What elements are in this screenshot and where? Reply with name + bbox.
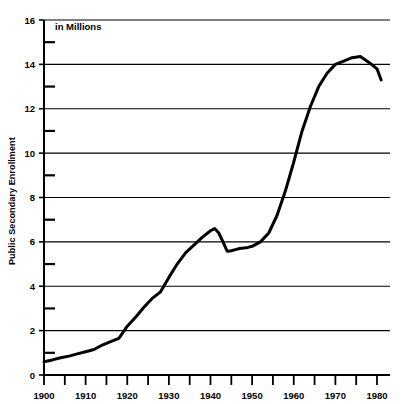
- x-axis-tick-labels: 190019101920193019401950196019701980: [33, 390, 387, 401]
- x-tick-label: 1930: [158, 390, 179, 401]
- y-tick-label: 0: [30, 370, 35, 381]
- y-tick-label: 12: [24, 103, 35, 114]
- y-axis-title: Public Secondary Enrollment: [7, 137, 17, 265]
- y-tick-label: 8: [30, 192, 35, 203]
- line-chart: 0246810121416 19001910192019301940195019…: [0, 0, 408, 404]
- x-tick-label: 1940: [200, 390, 221, 401]
- chart-container: 0246810121416 19001910192019301940195019…: [0, 0, 408, 404]
- units-annotation: in Millions: [55, 21, 101, 32]
- x-tick-label: 1920: [117, 390, 138, 401]
- y-tick-label: 2: [30, 325, 35, 336]
- y-tick-label: 6: [30, 236, 35, 247]
- y-tick-label: 4: [30, 281, 36, 292]
- x-tick-label: 1910: [75, 390, 96, 401]
- y-tick-label: 10: [24, 148, 35, 159]
- x-tick-label: 1900: [33, 390, 54, 401]
- y-tick-label: 14: [24, 59, 35, 70]
- x-tick-label: 1950: [242, 390, 263, 401]
- y-tick-label: 16: [24, 15, 35, 26]
- x-tick-label: 1970: [325, 390, 346, 401]
- x-tick-label: 1960: [283, 390, 304, 401]
- x-tick-label: 1980: [366, 390, 387, 401]
